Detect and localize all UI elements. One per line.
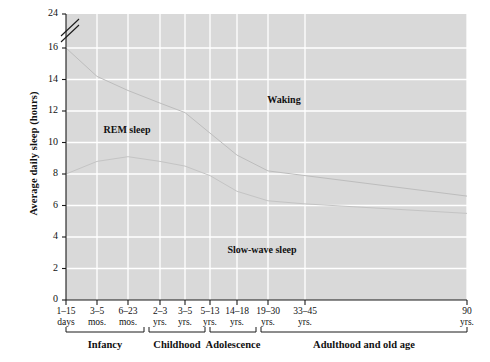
stage-brackets [66, 327, 467, 332]
sleep-lifespan-chart: Average daily sleep (hours) 024681012141… [0, 0, 490, 362]
y-tick-label-14: 14 [28, 74, 58, 84]
y-tick-label-10: 10 [28, 137, 58, 147]
x-tick-label-9: 33–45yrs. [293, 306, 317, 327]
x-tick-unit: yrs. [178, 317, 192, 328]
x-tick-range: 90 [462, 306, 472, 316]
x-tick-unit: days [57, 317, 76, 328]
x-tick-unit: yrs. [153, 317, 167, 328]
x-tick-range: 33–45 [293, 306, 317, 316]
region-label-rem-sleep: REM sleep [104, 124, 151, 135]
x-tick-range: 14–18 [225, 306, 249, 316]
x-tick-range: 3–5 [90, 306, 104, 316]
x-tick-unit: yrs. [225, 317, 249, 328]
y-tick-label-0: 0 [28, 294, 58, 304]
stage-label-childhood: Childhood [153, 339, 200, 350]
x-tick-label-8: 19–30yrs. [256, 306, 280, 327]
y-axis-ticks [62, 14, 66, 300]
stage-label-infancy: Infancy [88, 339, 122, 350]
x-tick-label-6: 5–13yrs. [201, 306, 220, 327]
x-tick-label-2: 3–5mos. [88, 306, 106, 327]
y-tick-label-2: 2 [28, 263, 58, 273]
y-tick-label-12: 12 [28, 105, 58, 115]
x-tick-unit: yrs. [201, 317, 220, 328]
x-tick-unit: mos. [88, 317, 106, 328]
y-tick-label-24: 24 [28, 8, 58, 18]
y-tick-label-4: 4 [28, 231, 58, 241]
x-tick-range: 3–5 [178, 306, 192, 316]
x-tick-range: 5–13 [201, 306, 220, 316]
stage-label-adolescence: Adolescence [206, 339, 261, 350]
x-tick-range: 19–30 [256, 306, 280, 316]
y-tick-label-16: 16 [28, 42, 58, 52]
x-tick-label-4: 2–3yrs. [153, 306, 167, 327]
stage-label-adulthood-and-old-age: Adulthood and old age [313, 339, 415, 350]
x-tick-unit: yrs. [460, 317, 474, 328]
x-tick-range: 2–3 [153, 306, 167, 316]
y-tick-label-6: 6 [28, 200, 58, 210]
x-tick-label-1: 1–15days [57, 306, 76, 327]
x-axis-ticks [66, 300, 467, 305]
x-tick-label-3: 6–23mos. [119, 306, 138, 327]
region-label-waking: Waking [267, 94, 300, 105]
x-tick-range: 6–23 [119, 306, 138, 316]
x-tick-label-7: 14–18yrs. [225, 306, 249, 327]
x-tick-label-10: 90yrs. [460, 306, 474, 327]
region-label-slow-wave-sleep: Slow-wave sleep [227, 244, 296, 255]
x-tick-label-5: 3–5yrs. [178, 306, 192, 327]
x-tick-unit: yrs. [293, 317, 317, 328]
x-tick-unit: mos. [119, 317, 138, 328]
x-tick-range: 1–15 [57, 306, 76, 316]
y-tick-label-8: 8 [28, 168, 58, 178]
x-tick-unit: yrs. [256, 317, 280, 328]
